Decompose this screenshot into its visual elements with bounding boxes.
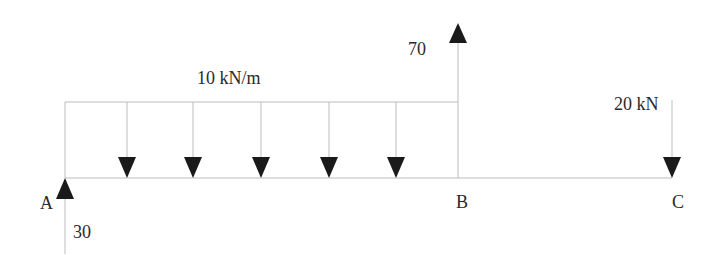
point-label-b: B — [456, 192, 468, 212]
reaction-b: 70 — [408, 23, 467, 178]
arrow-down-icon — [118, 157, 136, 178]
arrow-down-icon — [320, 157, 338, 178]
load-arrow — [118, 102, 136, 178]
load-arrow — [252, 102, 270, 178]
arrow-up-icon — [56, 178, 74, 199]
reaction-a: 30 — [56, 178, 91, 254]
reaction-b-value: 70 — [408, 39, 426, 59]
beam-diagram: 10 kN/m 30 70 20 kN A B C — [0, 0, 720, 255]
load-arrow — [184, 102, 202, 178]
reaction-a-value: 30 — [73, 222, 91, 242]
load-arrow — [320, 102, 338, 178]
distributed-load: 10 kN/m — [65, 68, 458, 178]
arrow-down-icon — [184, 157, 202, 178]
point-load-c-value: 20 kN — [614, 94, 659, 114]
arrow-down-icon — [387, 157, 405, 178]
point-load-c: 20 kN — [614, 94, 681, 178]
arrow-up-icon — [449, 23, 467, 43]
arrow-down-icon — [252, 157, 270, 178]
point-label-c: C — [672, 192, 684, 212]
load-arrow — [387, 102, 405, 178]
arrow-down-icon — [663, 157, 681, 178]
distributed-load-label: 10 kN/m — [197, 68, 261, 88]
point-label-a: A — [40, 193, 53, 213]
